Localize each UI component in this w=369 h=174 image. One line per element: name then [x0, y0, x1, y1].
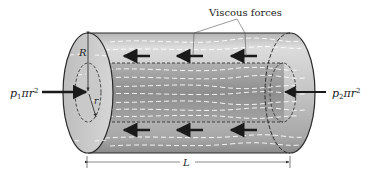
viscous-forces-label: Viscous forces [208, 7, 282, 18]
right-force-label: p2πr2 [332, 87, 360, 101]
inner-radius-label: r [94, 96, 99, 106]
length-dimension: L [87, 156, 290, 168]
outer-radius-label: R [78, 47, 87, 58]
length-label: L [182, 157, 190, 168]
pipe-flow-diagram: R r p1πr2 p2πr2 Viscous forces [0, 0, 369, 174]
left-force-label: p1πr2 [10, 87, 38, 101]
inner-cylinder [88, 63, 284, 122]
